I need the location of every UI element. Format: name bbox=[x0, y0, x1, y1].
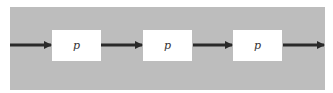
process-label: p bbox=[254, 39, 261, 52]
process-box-3: p bbox=[233, 30, 282, 61]
process-label: p bbox=[164, 39, 171, 52]
process-label: p bbox=[73, 39, 80, 52]
process-box-2: p bbox=[143, 30, 192, 61]
process-box-1: p bbox=[52, 30, 101, 61]
